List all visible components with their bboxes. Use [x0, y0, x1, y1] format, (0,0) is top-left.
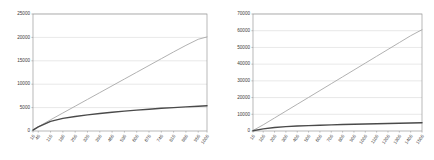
- y-tick-label: 50000: [237, 45, 250, 50]
- x-tick-label: 670: [144, 133, 153, 143]
- y-tick-label: 60000: [237, 28, 250, 33]
- x-tick-label: 530: [119, 133, 128, 143]
- plot-frame: [33, 14, 207, 131]
- x-tick-label: 390: [94, 133, 103, 143]
- y-tick-label: 30000: [237, 78, 250, 83]
- x-tick-label: 10: [249, 133, 256, 140]
- x-tick-label: 180: [57, 133, 66, 143]
- y-tick-label: 10000: [237, 112, 250, 117]
- x-tick-label: 900: [348, 133, 357, 143]
- x-tick-label: 40: [34, 133, 41, 140]
- right-chart-svg: 0100002000030000400005000060000700001010…: [217, 0, 434, 160]
- x-tick-label: 1000: [358, 133, 368, 145]
- series-line-upper-series: [253, 30, 422, 131]
- x-tick-label: 110: [45, 133, 54, 142]
- series-line-upper-series: [33, 37, 207, 130]
- x-tick-label: 1400: [404, 133, 414, 145]
- x-tick-label: 1200: [381, 133, 391, 145]
- y-tick-label: 0: [247, 128, 250, 133]
- x-tick-label: 200: [269, 133, 278, 143]
- x-tick-label: 880: [180, 133, 189, 143]
- x-tick-label: 1000: [200, 133, 210, 145]
- x-tick-label: 1100: [370, 133, 380, 144]
- x-tick-label: 1300: [392, 133, 402, 145]
- x-tick-label: 800: [337, 133, 346, 143]
- x-tick-label: 600: [314, 133, 323, 143]
- y-tick-label: 20000: [17, 35, 30, 40]
- right-chart-panel: 0100002000030000400005000060000700001010…: [217, 0, 434, 160]
- x-tick-label: 500: [303, 133, 312, 143]
- x-tick-label: 600: [131, 133, 140, 143]
- x-tick-label: 810: [168, 133, 177, 143]
- y-tick-label: 25000: [17, 11, 30, 16]
- x-tick-label: 100: [258, 133, 267, 143]
- series-line-lower-series: [33, 106, 207, 130]
- y-tick-label: 0: [27, 128, 30, 133]
- x-tick-label: 400: [292, 133, 301, 143]
- left-chart-svg: 0500010000150002000025000104011018025032…: [0, 0, 217, 160]
- y-tick-label: 40000: [237, 61, 250, 66]
- x-tick-label: 300: [280, 133, 289, 143]
- x-tick-label: 1500: [415, 133, 425, 145]
- x-tick-label: 700: [326, 133, 335, 143]
- y-tick-label: 70000: [237, 11, 250, 16]
- x-tick-label: 740: [156, 133, 165, 143]
- y-tick-label: 10000: [17, 81, 30, 86]
- series-line-lower-series: [253, 123, 422, 131]
- plot-frame: [253, 14, 422, 131]
- x-tick-label: 250: [70, 133, 79, 143]
- y-tick-label: 15000: [17, 58, 30, 63]
- two-panel-line-chart-figure: 0500010000150002000025000104011018025032…: [0, 0, 434, 160]
- left-chart-panel: 0500010000150002000025000104011018025032…: [0, 0, 217, 160]
- y-tick-label: 5000: [20, 105, 31, 110]
- x-tick-label: 460: [107, 133, 116, 143]
- y-tick-label: 20000: [237, 95, 250, 100]
- x-tick-label: 320: [82, 133, 91, 143]
